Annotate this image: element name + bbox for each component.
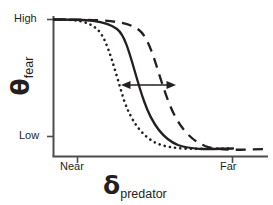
delta-symbol: δ bbox=[103, 173, 120, 198]
figure-container: High Low Near Far θ fear δ predator bbox=[0, 0, 273, 205]
x-tick-label-near: Near bbox=[60, 161, 84, 172]
theta-symbol: θ bbox=[8, 78, 33, 95]
y-tick-label-high: High bbox=[14, 13, 37, 24]
x-tick-label-far: Far bbox=[220, 161, 237, 172]
x-axis-title: δ predator bbox=[103, 173, 167, 198]
y-tick-label-low: Low bbox=[19, 130, 39, 141]
shift-arrow bbox=[121, 81, 176, 89]
delta-subscript: predator bbox=[120, 188, 167, 201]
y-axis-title: θ fear bbox=[8, 41, 36, 111]
theta-subscript: fear bbox=[23, 57, 36, 79]
